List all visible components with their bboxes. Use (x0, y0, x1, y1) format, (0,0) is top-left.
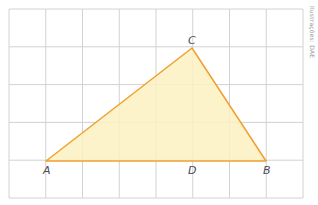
label-d: D (188, 164, 196, 177)
label-a: A (42, 164, 51, 177)
illustration-credit: Ilustrações: DAE (309, 6, 316, 58)
label-c: C (188, 34, 196, 47)
label-b: B (263, 164, 271, 177)
triangle-diagram: A B C D (0, 0, 318, 205)
